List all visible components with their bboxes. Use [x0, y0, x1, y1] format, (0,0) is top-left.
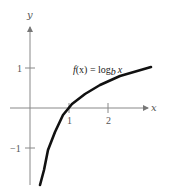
y-tick-label-1: 1: [17, 63, 22, 74]
y-axis-label: y: [26, 9, 33, 20]
x-axis-label: x: [151, 102, 157, 113]
x-tick-label-1: 1: [67, 115, 72, 126]
function-label: f(x) = logbx: [73, 64, 123, 77]
x-tick-label-2: 2: [106, 115, 111, 126]
log-function-graph: x y 1 2 1 −1 f(x) = logbx: [0, 0, 169, 195]
log-curve: [40, 67, 151, 185]
y-tick-label-neg1: −1: [10, 143, 21, 154]
